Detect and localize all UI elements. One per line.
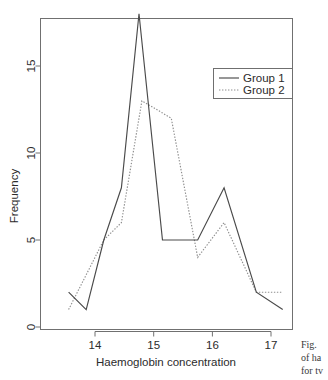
x-axis: 14 15 16 17 (89, 332, 278, 352)
series-line-group-2 (69, 101, 283, 310)
y-axis-title: Frequency (8, 169, 20, 224)
x-tick-label-15: 15 (147, 339, 160, 351)
figure-caption: Fig. of ha for tv (301, 339, 323, 376)
plot-frame (41, 19, 293, 330)
series-line-group-1 (69, 14, 283, 310)
figure-container: 15 10 5 0 Frequency 14 15 16 17 Haemoglo… (0, 0, 328, 380)
caption-line-3: for tv (301, 365, 323, 376)
y-axis: 15 10 5 0 (25, 60, 41, 331)
caption-line-2: of ha (301, 352, 322, 363)
y-tick-label-0: 0 (25, 324, 37, 330)
caption-line-1: Fig. (301, 339, 317, 350)
legend-label-group-1: Group 1 (243, 72, 285, 84)
x-tick-label-14: 14 (89, 339, 102, 351)
chart-svg: 15 10 5 0 Frequency 14 15 16 17 Haemoglo… (0, 0, 328, 380)
legend: Group 1 Group 2 (214, 69, 293, 99)
legend-label-group-2: Group 2 (243, 84, 285, 96)
x-axis-title: Haemoglobin concentration (96, 356, 236, 368)
x-tick-label-17: 17 (265, 339, 278, 351)
y-tick-label-15: 15 (25, 60, 37, 73)
y-tick-label-10: 10 (25, 147, 37, 160)
x-tick-label-16: 16 (206, 339, 219, 351)
y-tick-label-5: 5 (25, 237, 37, 243)
